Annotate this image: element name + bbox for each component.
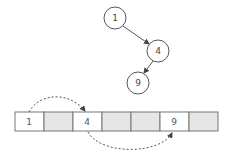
tree-edge-1-to-4 xyxy=(123,26,149,44)
array-link-0-to-2 xyxy=(29,97,85,112)
tree-node-9: 9 xyxy=(127,72,149,94)
tree-node-1: 1 xyxy=(104,7,126,29)
array: 1 4 9 xyxy=(15,112,218,131)
tree-node-label: 4 xyxy=(155,46,161,56)
array-link-2-to-5 xyxy=(88,132,172,149)
array-cell-3 xyxy=(102,112,131,131)
tree-node-label: 9 xyxy=(135,78,141,88)
array-cell-label: 1 xyxy=(26,117,32,127)
diagram-canvas: 1 4 9 1 4 9 xyxy=(0,0,228,156)
tree-node-label: 1 xyxy=(112,13,118,23)
array-cell-6 xyxy=(189,112,218,131)
array-cell-4 xyxy=(131,112,160,131)
tree-edge-4-to-9 xyxy=(144,61,153,73)
array-cell-label: 4 xyxy=(84,117,90,127)
array-cell-1 xyxy=(44,112,73,131)
tree-node-4: 4 xyxy=(147,40,169,62)
array-cell-label: 9 xyxy=(171,117,177,127)
